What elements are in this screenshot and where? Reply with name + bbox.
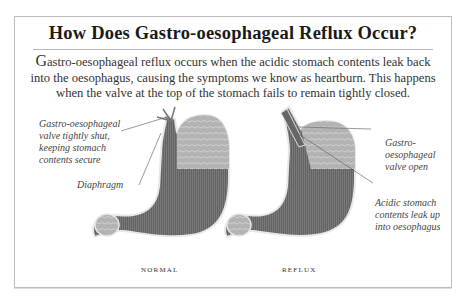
label-valve-shut: Gastro-oesophageal valve tightly shut, k…	[39, 118, 120, 166]
label-line: Acidic stomach	[375, 197, 440, 209]
label-diaphragm: Diaphragm	[77, 179, 123, 191]
label-acid-leak: Acidic stomach contents leak up into oes…	[375, 197, 440, 233]
valve-leader-line	[121, 117, 167, 131]
diaphragm-leader-line	[139, 133, 161, 185]
label-line: keeping stomach	[39, 142, 120, 154]
label-valve-open: Gastro- oesophageal valve open	[385, 137, 436, 173]
label-line: Gastro-oesophageal	[39, 118, 120, 130]
reflux-stomach-icon	[225, 107, 355, 237]
caption-normal: NORMAL	[141, 266, 179, 274]
label-line: contents secure	[39, 154, 120, 166]
label-line: into oesophagus	[375, 221, 440, 233]
label-line: valve tightly shut,	[39, 130, 120, 142]
label-line: contents leak up	[375, 209, 440, 221]
label-line: oesophageal	[385, 149, 436, 161]
label-line: Gastro-	[385, 137, 436, 149]
figure-frame: How Does Gastro-oesophageal Reflux Occur…	[14, 16, 452, 288]
label-line: valve open	[385, 161, 436, 173]
caption-reflux: REFLUX	[282, 266, 316, 274]
